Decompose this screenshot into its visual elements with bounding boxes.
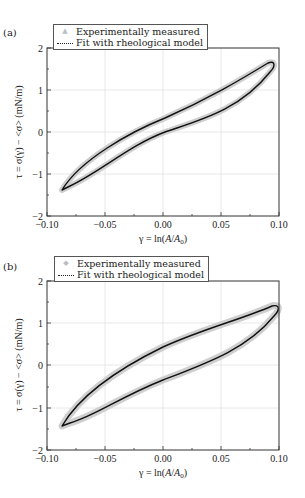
legend-label-measured-b: Experimentally measured [77,258,201,269]
x-axis-label-b: γ = ln(A/A0) [138,467,187,480]
svg-text:2: 2 [38,276,43,287]
svg-text:2: 2 [38,43,43,54]
grid-b [47,281,279,450]
y-axis-label-a: τ = σ(γ) − <σ> (mN/m) [13,85,25,178]
panel-a: (a) 2 1 0 [0,0,305,250]
svg-text:0.00: 0.00 [154,219,172,230]
y-tick-labels-b: 2 1 0 −1 −2 [32,276,43,456]
legend-b: ◆ Experimentally measured Fit with rheol… [54,256,209,282]
svg-text:−0.10: −0.10 [35,453,58,464]
legend-label-fit-a: Fit with rheological model [76,37,203,48]
x-tick-labels-a: −0.10 −0.05 0.00 0.05 0.10 [35,219,287,230]
svg-text:0.10: 0.10 [270,219,288,230]
svg-text:1: 1 [38,318,43,329]
y-axis-label-b: τ = σ(γ) − <σ> (mN/m) [13,318,25,411]
chart-b: 2 1 0 −1 −2 −0.10 −0.05 0.00 0.05 0.10 γ… [0,250,305,498]
x-tick-labels-b: −0.10 −0.05 0.00 0.05 0.10 [35,453,287,464]
dotted-line-icon [58,275,74,276]
diamond-marker-icon: ◆ [58,258,74,269]
y-tick-labels-a: 2 1 0 −1 −2 [32,43,43,222]
measured-data-a [62,62,274,190]
svg-text:−0.10: −0.10 [35,219,58,230]
legend-item-measured-a: ▲ Experimentally measured [57,26,203,37]
svg-text:0.05: 0.05 [212,453,230,464]
svg-text:−1: −1 [32,403,43,414]
svg-text:−0.05: −0.05 [93,453,116,464]
legend-a: ▲ Experimentally measured Fit with rheol… [53,24,208,50]
svg-text:0.00: 0.00 [154,453,172,464]
legend-item-measured-b: ◆ Experimentally measured [58,258,204,269]
legend-label-fit-b: Fit with rheological model [77,269,204,280]
legend-item-fit-b: Fit with rheological model [58,269,204,280]
panel-b: (b) 2 1 0 −1 −2 [0,250,305,498]
svg-text:−0.05: −0.05 [93,219,116,230]
svg-text:0.10: 0.10 [270,453,288,464]
x-axis-label-a: γ = ln(A/A0) [138,233,187,246]
svg-text:0.05: 0.05 [212,219,230,230]
legend-label-measured-a: Experimentally measured [76,26,200,37]
svg-text:0: 0 [38,127,43,138]
svg-text:0: 0 [38,360,43,371]
triangle-marker-icon: ▲ [57,26,73,37]
legend-item-fit-a: Fit with rheological model [57,37,203,48]
dotted-line-icon [57,43,73,44]
svg-text:1: 1 [38,85,43,96]
svg-text:−1: −1 [32,169,43,180]
